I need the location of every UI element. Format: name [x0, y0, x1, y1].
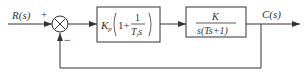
- output-label: C(s): [262, 8, 281, 21]
- svg-text:s(Ts+1): s(Ts+1): [197, 25, 229, 37]
- block-diagram: R(s) + − Kp 1+ 1 Tis K s(Ts+1) C(s): [0, 0, 307, 74]
- svg-text:1: 1: [135, 12, 140, 23]
- plus-sign: +: [41, 8, 47, 20]
- svg-text:1+: 1+: [118, 19, 130, 31]
- svg-text:K: K: [211, 11, 220, 22]
- input-label: R(s): [11, 9, 31, 22]
- minus-sign: −: [64, 33, 71, 47]
